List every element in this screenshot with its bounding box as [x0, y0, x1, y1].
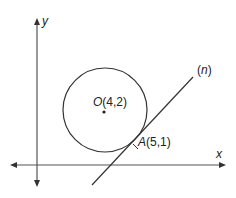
tangent-point-label: A(5,1): [137, 135, 171, 149]
coordinate-diagram: y x O(4,2) A(5,1) (n): [0, 0, 236, 198]
y-axis-down-arrow-icon: [34, 180, 40, 187]
tangent-line-n: [92, 77, 193, 185]
x-axis: [10, 162, 226, 168]
x-axis-left-arrow-icon: [10, 162, 17, 168]
center-coords: (4,2): [102, 95, 127, 109]
center-point-dot: [102, 110, 105, 113]
y-axis-label: y: [41, 14, 49, 28]
center-label: O(4,2): [93, 95, 127, 109]
tangent-point-coords: (5,1): [146, 135, 171, 149]
x-axis-label: x: [215, 147, 223, 161]
x-axis-right-arrow-icon: [219, 162, 226, 168]
y-axis: [34, 18, 40, 187]
diagram-canvas: y x O(4,2) A(5,1) (n): [0, 0, 236, 198]
tangent-point-letter: A: [137, 135, 146, 149]
center-letter: O: [93, 95, 102, 109]
y-axis-up-arrow-icon: [34, 18, 40, 25]
line-label: (n): [197, 63, 212, 77]
